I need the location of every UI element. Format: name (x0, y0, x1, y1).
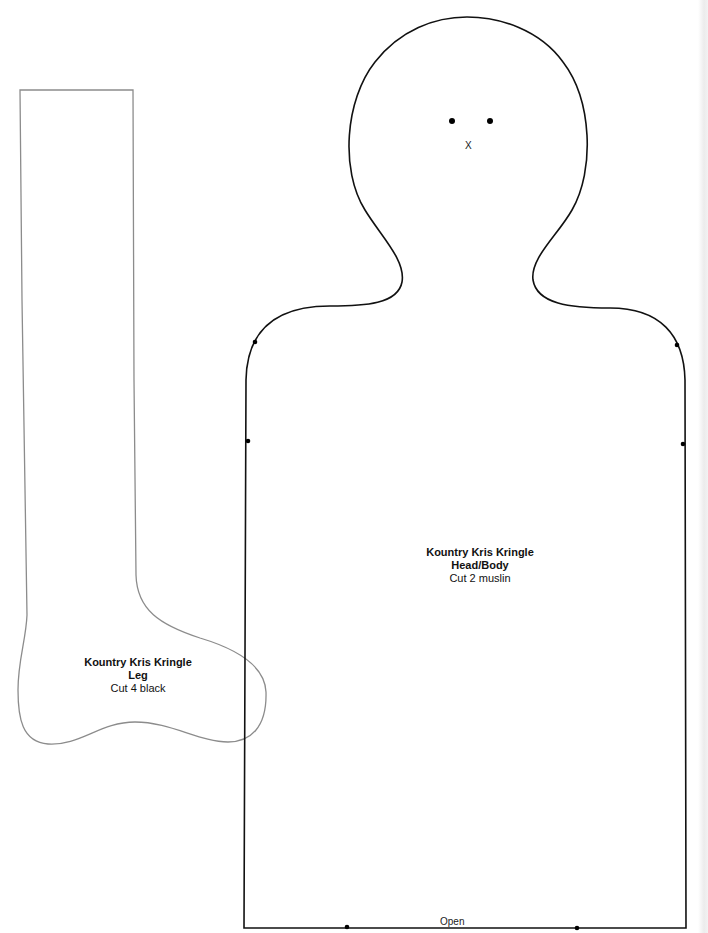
right-arm-marker (681, 442, 686, 447)
left-eye-dot (449, 118, 455, 124)
left-arm-marker (246, 439, 251, 444)
head-body-title: Kountry Kris Kringle (380, 546, 580, 559)
right-shoulder-marker (675, 343, 680, 348)
head-body-part: Head/Body (380, 559, 580, 572)
head-body-outline (244, 17, 686, 928)
leg-label: Kountry Kris Kringle Leg Cut 4 black (58, 656, 218, 695)
left-shoulder-marker (253, 340, 258, 345)
head-body-label: Kountry Kris Kringle Head/Body Cut 2 mus… (380, 546, 580, 585)
right-eye-dot (487, 118, 493, 124)
head-body-instruction: Cut 2 muslin (380, 572, 580, 585)
nose-mark: X (465, 141, 472, 151)
open-right-marker (575, 926, 580, 931)
leg-instruction: Cut 4 black (58, 682, 218, 695)
leg-title: Kountry Kris Kringle (58, 656, 218, 669)
leg-outline (18, 90, 266, 744)
pattern-drawing (0, 0, 708, 933)
open-left-marker (345, 925, 350, 930)
page-edge-shadow (698, 0, 708, 933)
pattern-page: X Kountry Kris Kringle Head/Body Cut 2 m… (0, 0, 708, 933)
leg-part: Leg (58, 669, 218, 682)
open-label: Open (440, 916, 464, 927)
